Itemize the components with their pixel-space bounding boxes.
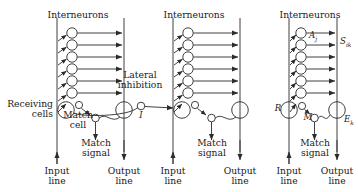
match-cell-label-1: Match cell xyxy=(58,110,98,130)
diagram-svg xyxy=(0,0,358,192)
match-symbol-M: M xyxy=(302,112,314,122)
interneuron-inputs-1 xyxy=(58,35,67,101)
output-symbol-E: Ek xyxy=(344,104,358,128)
input-line-label-3: Input line xyxy=(269,166,309,186)
match-wavy-2 xyxy=(215,116,236,119)
match-wavy-1 xyxy=(99,116,120,119)
match-synapse-3 xyxy=(298,102,305,109)
figure-canvas: Interneurons Interneurons Interneurons R… xyxy=(0,0,358,192)
activity-symbol-A: Aj xyxy=(309,20,329,44)
input-line-label-1: Input line xyxy=(37,166,77,186)
interneurons-3 xyxy=(296,28,306,98)
signal-symbol-S: Sik xyxy=(340,26,358,50)
input-line-label-2: Input line xyxy=(153,166,193,186)
interneuron-inputs-3 xyxy=(290,35,296,101)
receiving-cells-label: Receiving cells xyxy=(0,99,53,119)
inhibition-cell xyxy=(137,102,145,110)
match-signal-label-3: Match signal xyxy=(294,138,336,158)
receiving-symbol-R: R xyxy=(272,103,284,113)
interneurons-label-1: Interneurons xyxy=(33,10,123,20)
output-line-label-2: Output line xyxy=(220,166,260,186)
match-signal-label-2: Match signal xyxy=(191,138,233,158)
output-line-label-3: Output line xyxy=(317,166,357,186)
match-synapse-1 xyxy=(75,101,82,108)
match-cell-2 xyxy=(208,114,216,122)
inhibition-symbol-I: I xyxy=(135,110,147,120)
interneuron-outputs-2 xyxy=(194,33,239,93)
interneurons-1 xyxy=(67,28,77,98)
inhibition-arrow xyxy=(145,107,173,109)
interneurons-label-3: Interneurons xyxy=(265,10,355,20)
match-wavy-3 xyxy=(318,115,330,118)
match-signal-label-1: Match signal xyxy=(75,138,117,158)
receiving-input-arrow-3 xyxy=(290,104,296,112)
activity-symbol-A-sub: j xyxy=(315,35,317,42)
interneuron-inputs-2 xyxy=(174,35,183,101)
match-arrow-2 xyxy=(198,109,207,116)
output-line-label-1: Output line xyxy=(104,166,144,186)
interneurons-2 xyxy=(183,28,193,98)
match-synapse-2 xyxy=(191,101,198,108)
output-symbol-E-sub: k xyxy=(350,119,354,126)
signal-symbol-S-sub: ik xyxy=(346,41,352,48)
lateral-inhibition-label: Lateral inhibition xyxy=(110,70,170,90)
interneurons-label-2: Interneurons xyxy=(149,10,239,20)
